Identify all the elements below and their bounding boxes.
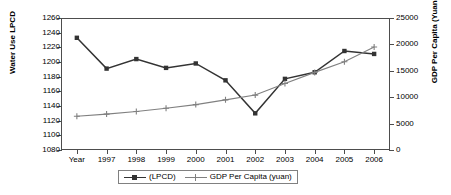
chart-legend: (LPCD)GDP Per Capita (yuan) [118,170,298,184]
data-point-marker [253,111,257,115]
series-layer [0,0,451,195]
data-point-marker [104,111,110,117]
chart-container: Water Use LPCD GDP Per Capita (Yuan) 108… [0,0,451,195]
legend-item: (LPCD) [124,173,176,182]
data-point-marker [341,59,347,65]
data-point-marker [104,66,108,70]
data-point-marker [252,92,258,98]
data-point-marker [194,61,198,65]
legend-item: GDP Per Capita (yuan) [185,173,292,182]
data-point-marker [134,57,138,61]
data-point-marker [163,105,169,111]
data-point-marker [372,52,376,56]
data-point-marker [342,49,346,53]
series-1 [75,36,377,116]
data-point-marker [371,44,377,50]
legend-square-marker-icon [124,173,146,182]
data-point-marker [133,108,139,114]
data-point-marker [223,78,227,82]
data-point-marker [283,77,287,81]
legend-plus-marker-icon [185,173,207,182]
data-point-marker [75,36,79,40]
legend-label: GDP Per Capita (yuan) [210,173,292,181]
data-point-marker [223,97,229,103]
data-point-marker [164,66,168,70]
data-point-marker [193,102,199,108]
legend-label: (LPCD) [149,173,176,181]
data-point-marker [74,113,80,119]
